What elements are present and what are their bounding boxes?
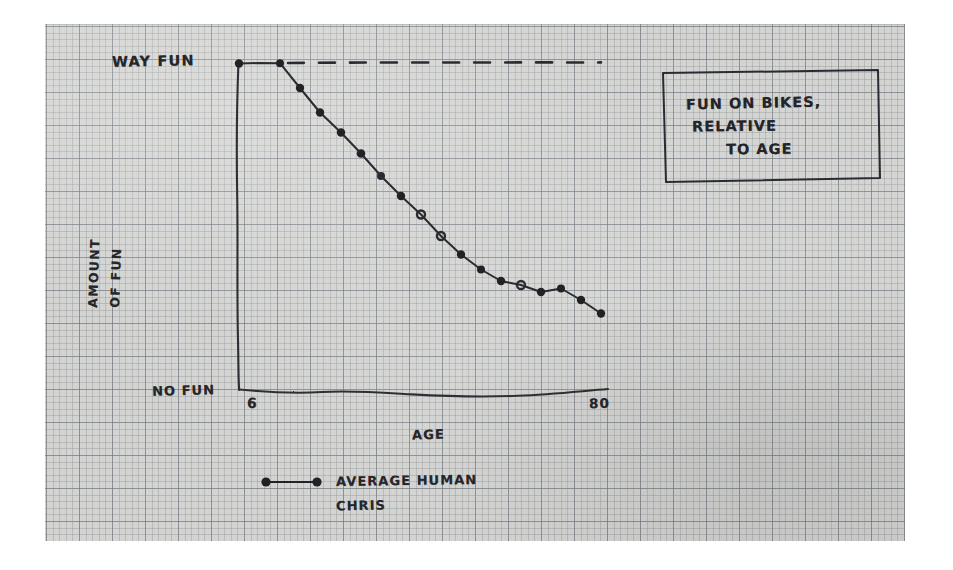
y-axis-top-tick-label: WAY FUN [112,52,195,70]
legend-label-chris: CHRIS [336,497,386,513]
legend-label-average-human: AVERAGE HUMAN [336,472,477,489]
screenshot-canvas: WAY FUN NO FUN 6 80 AGE AMOUNT OF FUN FU… [0,0,953,570]
chart-legend: AVERAGE HUMAN CHRIS [255,470,585,526]
y-axis-title: AMOUNT OF FUN [84,175,214,325]
x-axis-title: AGE [412,427,445,443]
chart-title-line-2: RELATIVE [692,118,777,135]
y-axis-title-line-2: OF FUN [107,247,124,308]
x-axis-start-tick-label: 6 [247,395,258,411]
y-axis-bottom-tick-label: NO FUN [152,382,215,399]
chart-title-line-3: TO AGE [726,141,793,157]
chart-title-text: FUN ON BIKES, RELATIVE TO AGE [662,71,880,181]
chart-title-box: FUN ON BIKES, RELATIVE TO AGE [662,71,880,181]
y-axis-title-line-1: AMOUNT [85,238,102,308]
x-axis-end-tick-label: 80 [589,395,610,411]
chart-title-line-1: FUN ON BIKES, [686,94,821,113]
